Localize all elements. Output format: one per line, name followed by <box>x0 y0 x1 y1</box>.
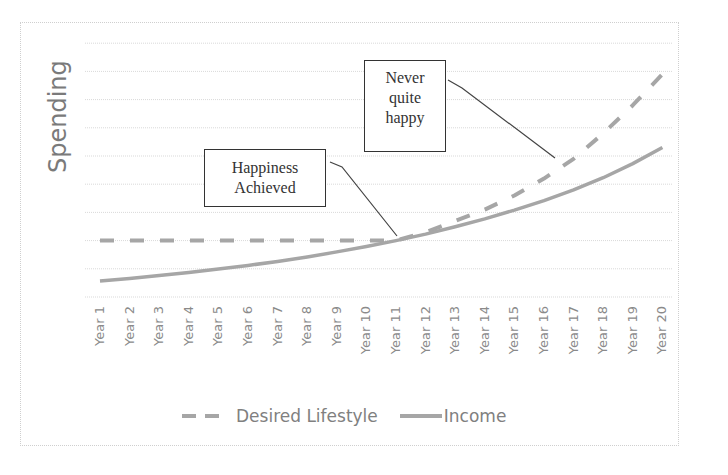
x-tick-label: Year 6 <box>240 306 255 386</box>
legend-item-income: Income <box>400 406 507 426</box>
annotation-never-quite-happy: Never quite happy <box>364 60 446 152</box>
annotation-line: Achieved <box>205 178 325 198</box>
x-tick-label: Year 9 <box>329 306 344 386</box>
x-tick-label: Year 20 <box>654 306 669 386</box>
annotation-line: Never <box>365 68 445 88</box>
annotation-leader-line <box>330 162 397 236</box>
legend-item-desired-lifestyle: Desired Lifestyle <box>180 406 378 426</box>
x-tick-label: Year 5 <box>210 306 225 386</box>
x-tick-label: Year 15 <box>506 306 521 386</box>
legend: Desired Lifestyle Income <box>180 406 528 426</box>
annotation-line: Happiness <box>205 158 325 178</box>
x-tick-label: Year 2 <box>122 306 137 386</box>
x-tick-label: Year 3 <box>151 306 166 386</box>
x-tick-label: Year 7 <box>270 306 285 386</box>
x-tick-label: Year 12 <box>418 306 433 386</box>
y-axis-label: Spending <box>44 60 72 173</box>
x-tick-label: Year 1 <box>92 306 107 386</box>
x-tick-label: Year 8 <box>299 306 314 386</box>
annotation-line: happy <box>365 108 445 128</box>
x-tick-label: Year 10 <box>358 306 373 386</box>
annotation-happiness-achieved: Happiness Achieved <box>204 149 326 207</box>
legend-label: Desired Lifestyle <box>236 406 378 426</box>
x-tick-label: Year 4 <box>181 306 196 386</box>
x-tick-label: Year 17 <box>566 306 581 386</box>
x-tick-label: Year 13 <box>447 306 462 386</box>
annotation-line: quite <box>365 88 445 108</box>
annotation-leader-line <box>448 80 555 158</box>
x-tick-label: Year 11 <box>388 306 403 386</box>
x-tick-label: Year 19 <box>625 306 640 386</box>
x-tick-label: Year 18 <box>595 306 610 386</box>
solid-line-swatch-icon <box>400 411 442 421</box>
x-tick-label: Year 14 <box>477 306 492 386</box>
x-tick-label: Year 16 <box>536 306 551 386</box>
legend-label: Income <box>444 406 507 426</box>
dashed-line-swatch-icon <box>180 411 230 421</box>
series-line-income <box>100 148 662 281</box>
